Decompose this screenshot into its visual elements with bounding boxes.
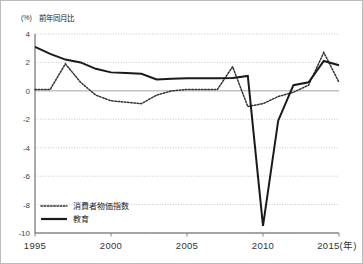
x-tick-label-2015: 2015(年) [317, 240, 357, 251]
y-tick-label--4: -4 [23, 144, 31, 153]
x-tick-label-2010: 2010 [252, 240, 274, 251]
chart-axis-note: 前年同月比 [39, 13, 75, 23]
x-axis-ticks: 19952000200520102015(年) [24, 233, 357, 251]
series-line-education [35, 47, 339, 226]
y-axis-unit-label: (%) [21, 14, 32, 22]
x-tick-label-1995: 1995 [24, 240, 46, 251]
series-line-cpi [35, 52, 339, 106]
chart-figure: 420-2-4-6-8-10 19952000200520102015(年) (… [0, 0, 363, 264]
x-tick-label-2000: 2000 [100, 240, 122, 251]
data-series [35, 47, 339, 226]
y-tick-label-4: 4 [26, 30, 31, 39]
x-tick-label-2005: 2005 [176, 240, 198, 251]
y-tick-label--2: -2 [23, 115, 31, 124]
y-tick-label--8: -8 [23, 201, 31, 210]
legend-label-education: 教育 [73, 214, 89, 224]
legend-label-cpi: 消費者物価指数 [73, 201, 129, 211]
y-tick-label--6: -6 [23, 172, 31, 181]
y-axis-ticks: 420-2-4-6-8-10 [18, 30, 30, 238]
y-tick-label--10: -10 [18, 229, 30, 238]
line-chart: 420-2-4-6-8-10 19952000200520102015(年) (… [1, 1, 363, 264]
y-tick-label-2: 2 [26, 58, 31, 67]
y-tick-label-0: 0 [26, 87, 31, 96]
